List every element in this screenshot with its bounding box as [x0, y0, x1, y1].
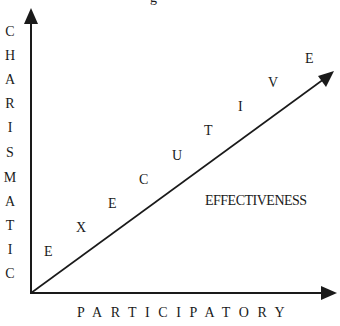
diagram-axes [0, 0, 340, 326]
diag-letter: E [44, 245, 53, 259]
diag-letter: E [108, 197, 117, 211]
diag-letter: X [76, 221, 86, 235]
y-letter: I [3, 121, 17, 135]
y-letter: T [3, 219, 17, 233]
y-letter: S [3, 146, 17, 160]
x-axis-label: PARTICIPATORY [77, 305, 293, 321]
diag-letter: I [238, 100, 243, 114]
y-letter: R [3, 97, 17, 111]
y-letter: C [3, 25, 17, 39]
effectiveness-label: EFFECTIVENESS [205, 193, 307, 209]
diag-letter: C [139, 173, 148, 187]
diag-letter: V [268, 76, 278, 90]
diag-letter: T [204, 124, 213, 138]
y-letter: M [3, 171, 17, 185]
diag-letter: E [305, 52, 314, 66]
y-letter: A [3, 73, 17, 87]
top-text-fragment: g [150, 0, 157, 6]
y-letter: A [3, 195, 17, 209]
y-letter: I [3, 243, 17, 257]
y-axis-arrow-icon [24, 8, 38, 24]
diagonal-line [31, 79, 324, 293]
y-letter: H [3, 49, 17, 63]
y-letter: C [3, 267, 17, 281]
diagonal-arrow-icon [318, 71, 334, 87]
x-axis-arrow-icon [321, 286, 337, 300]
diag-letter: U [172, 149, 182, 163]
